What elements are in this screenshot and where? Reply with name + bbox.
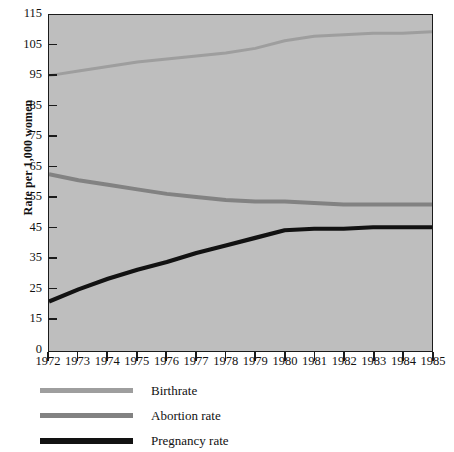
axis-tick-marks xyxy=(0,14,454,374)
x-axis-tick-labels: 1972197319741975197619771978197919801981… xyxy=(0,355,454,373)
legend-swatch xyxy=(40,413,133,418)
legend-item: Pregnancy rate xyxy=(40,428,420,452)
y-tick-mark xyxy=(48,257,57,259)
y-tick-mark xyxy=(48,288,57,290)
chart-legend: BirthrateAbortion ratePregnancy rate xyxy=(40,378,420,452)
legend-item: Birthrate xyxy=(40,378,420,403)
legend-label: Pregnancy rate xyxy=(151,434,229,447)
legend-label: Birthrate xyxy=(151,384,197,397)
y-tick-mark xyxy=(48,227,57,229)
y-tick-mark xyxy=(48,74,57,76)
x-tick-label: 1985 xyxy=(413,355,453,368)
y-tick-mark xyxy=(48,105,57,107)
legend-item: Abortion rate xyxy=(40,403,420,428)
y-tick-mark xyxy=(48,196,57,198)
y-tick-mark xyxy=(48,44,57,46)
legend-swatch xyxy=(40,388,133,393)
y-tick-mark xyxy=(48,135,57,137)
y-tick-mark xyxy=(48,318,57,320)
y-tick-mark xyxy=(48,166,57,168)
legend-label: Abortion rate xyxy=(151,409,221,422)
legend-swatch xyxy=(40,438,133,444)
